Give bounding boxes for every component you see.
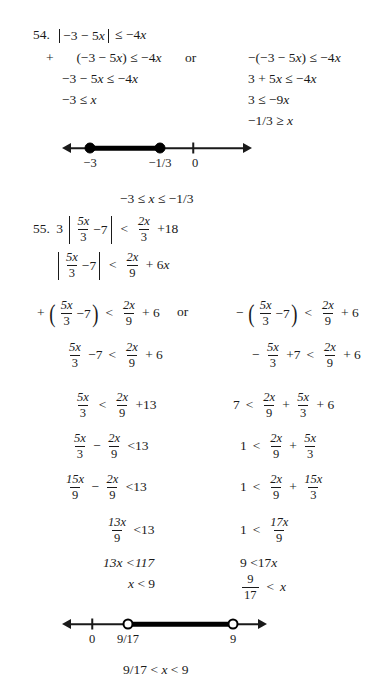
variable-x: x bbox=[132, 71, 138, 86]
paren-left: ( bbox=[49, 305, 55, 323]
endpoint-closed-left bbox=[85, 143, 96, 154]
fraction-2x-over-9: 2x 9 bbox=[124, 341, 140, 369]
tick-zero bbox=[192, 143, 194, 154]
problem-55-number: 55. bbox=[33, 221, 50, 236]
p55-left-step-8: x < 9 bbox=[128, 577, 155, 591]
fraction-numerator: 2x bbox=[136, 215, 152, 228]
fraction-numerator: 15x bbox=[302, 473, 324, 486]
p55-right-step-7: 9 <17x bbox=[240, 556, 277, 570]
less-than-sign: < bbox=[250, 479, 263, 494]
plus-sign: + bbox=[37, 305, 45, 320]
problem-54-number: 54. bbox=[33, 27, 50, 42]
less-than-sign: < bbox=[250, 522, 263, 537]
minus-sign: − bbox=[93, 438, 101, 453]
solution-segment bbox=[90, 146, 160, 151]
fraction-9-over-17: 9 17 bbox=[242, 573, 259, 601]
minus-seven: −7 bbox=[275, 307, 289, 321]
fraction-numerator: 5x bbox=[75, 215, 91, 228]
p55-left-step-4: 5x 3 − 2x 9 <13 bbox=[70, 433, 149, 461]
p54-r1-end: ) ≤ −4 bbox=[302, 50, 335, 65]
less-than-thirteen: <13 bbox=[127, 438, 148, 453]
paren-left: ( bbox=[248, 305, 254, 323]
fraction-2x-over-9: 2x 9 bbox=[106, 432, 122, 460]
fraction-numerator: 5x bbox=[295, 391, 311, 404]
p55-right-step-4: 1 < 2x 9 + 5x 3 bbox=[240, 433, 320, 461]
tick-zero bbox=[91, 619, 93, 630]
variable-x: x bbox=[140, 27, 146, 42]
p54-abs-body: −3 − 5 bbox=[63, 29, 98, 43]
p54-relation: ≤ −4 bbox=[115, 27, 140, 42]
fraction-13x-over-9: 13x 9 bbox=[106, 516, 128, 544]
p54-right-step-1: −(−3 − 5x) ≤ −4x bbox=[248, 51, 341, 65]
fraction-numerator: 2x bbox=[261, 391, 277, 404]
fraction-denominator: 3 bbox=[78, 405, 88, 420]
fraction-5x-over-3: 5x 3 bbox=[72, 432, 88, 460]
fraction-5x-over-3: 5x 3 bbox=[265, 341, 281, 369]
fraction-numerator: 9 bbox=[245, 573, 255, 586]
abs-bar-right bbox=[99, 252, 100, 280]
p55-right-step-6: 1 < 17x 9 bbox=[240, 517, 292, 545]
variable-x: x bbox=[280, 579, 286, 594]
number-line-label: 9/17 bbox=[117, 632, 139, 647]
plus-sign: + bbox=[289, 438, 297, 453]
one: 1 bbox=[240, 479, 247, 494]
fraction-2x-over-9: 2x 9 bbox=[322, 341, 338, 369]
variable-x: x bbox=[283, 92, 289, 107]
abs-bar-right bbox=[111, 216, 112, 244]
fraction-denominator: 9 bbox=[107, 487, 117, 502]
fraction-15x-over-9: 15x 9 bbox=[64, 473, 86, 501]
p54-l1-end: ) ≤ −4 bbox=[122, 50, 155, 65]
plus-thirteen: +13 bbox=[135, 397, 156, 412]
fraction-denominator: 9 bbox=[127, 265, 137, 280]
plus-seven: +7 bbox=[286, 347, 300, 362]
variable-x: x bbox=[155, 50, 161, 65]
plus-sign: + bbox=[282, 397, 290, 412]
fraction-denominator: 3 bbox=[298, 405, 308, 420]
fraction-denominator: 17 bbox=[242, 587, 259, 602]
variable-x: x bbox=[271, 555, 277, 570]
fraction-denominator: 9 bbox=[271, 446, 281, 461]
number-line-problem-54: −3 −1/3 0 bbox=[62, 138, 252, 158]
less-than-sign: < bbox=[107, 257, 120, 272]
fraction-denominator: 3 bbox=[75, 446, 85, 461]
fraction-2x-over-9: 2x 9 bbox=[125, 251, 141, 279]
fraction-denominator: 3 bbox=[67, 265, 77, 280]
number-line-label: −1/3 bbox=[148, 156, 171, 171]
fraction-denominator: 9 bbox=[264, 405, 274, 420]
fraction-denominator: 9 bbox=[271, 487, 281, 502]
fraction-5x-over-3: 5x 3 bbox=[295, 391, 311, 419]
one: 1 bbox=[240, 522, 247, 537]
fraction-denominator: 3 bbox=[308, 487, 318, 502]
fraction-denominator: 3 bbox=[268, 355, 278, 370]
variable-x: x bbox=[91, 92, 97, 107]
fraction-numerator: 17x bbox=[268, 516, 290, 529]
or-label: or bbox=[185, 50, 196, 65]
abs-bar-left bbox=[69, 216, 70, 244]
absolute-value-group: 5x 3 −7 bbox=[66, 216, 114, 244]
endpoint-closed-right bbox=[155, 143, 166, 154]
fraction-numerator: 2x bbox=[322, 341, 338, 354]
fraction-denominator: 3 bbox=[78, 229, 88, 244]
p54-l2-end: ≤ −4 bbox=[103, 71, 132, 86]
fraction-denominator: 9 bbox=[112, 530, 122, 545]
fraction-denominator: 9 bbox=[70, 487, 80, 502]
less-than-sign: < bbox=[103, 305, 116, 320]
problem-55-statement: 55. 3 5x 3 −7 < 2x 3 +18 bbox=[33, 216, 178, 244]
p55-left-step-6: 13x 9 <13 bbox=[104, 517, 155, 545]
fraction-denominator: 9 bbox=[323, 313, 333, 328]
plus-sign: + bbox=[46, 50, 54, 65]
or-label: or bbox=[177, 304, 188, 319]
p54-l2-text: −3 − 5 bbox=[62, 71, 97, 86]
less-than-thirteen: <13 bbox=[133, 522, 154, 537]
arrow-left-icon bbox=[62, 143, 71, 153]
minus-sign: − bbox=[91, 479, 99, 494]
p54-r2-end: ≤ −4 bbox=[282, 71, 311, 86]
fraction-numerator: 5x bbox=[258, 299, 274, 312]
less-than-sign: < bbox=[302, 305, 315, 320]
fraction-5x-over-3: 5x 3 bbox=[67, 341, 83, 369]
p55-solution-right: < 9 bbox=[167, 662, 188, 677]
arrow-right-icon bbox=[258, 619, 267, 629]
fraction-numerator: 5x bbox=[72, 432, 88, 445]
fraction-numerator: 2x bbox=[124, 341, 140, 354]
less-than-sign: < bbox=[243, 397, 256, 412]
